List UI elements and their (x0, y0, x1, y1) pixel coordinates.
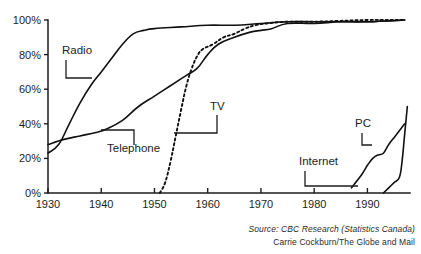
x-tick-label: 1950 (142, 198, 166, 210)
y-tick-label: 20% (19, 152, 41, 164)
y-tick-label: 60% (19, 83, 41, 95)
y-tick-label: 100% (13, 14, 41, 26)
series-label-tv: TV (210, 100, 225, 112)
y-tick-label: 40% (19, 118, 41, 130)
x-tick-label: 1940 (89, 198, 113, 210)
data-series-group (48, 20, 407, 193)
leader-line-pc (362, 133, 372, 145)
chart-axes (48, 20, 410, 193)
x-axis-ticks: 1930194019501960197019801990 (36, 188, 380, 210)
series-annotations: RadioTelephoneTVPCInternet (62, 44, 372, 186)
y-axis-ticks: 0%20%40%60%80%100% (13, 14, 48, 199)
x-tick-label: 1990 (355, 198, 379, 210)
x-tick-label: 1960 (195, 198, 219, 210)
technology-adoption-line-chart: 0%20%40%60%80%100% 193019401950196019701… (0, 0, 421, 254)
series-label-radio: Radio (62, 44, 92, 56)
leader-line-tv (174, 115, 217, 133)
series-line-internet (383, 107, 407, 194)
x-tick-label: 1980 (302, 198, 326, 210)
x-tick-label: 1970 (249, 198, 273, 210)
series-line-tv (160, 20, 405, 193)
series-line-pc (351, 124, 404, 188)
source-credit: Source: CBC Research (Statistics Canada) (248, 224, 415, 234)
x-tick-label: 1930 (36, 198, 60, 210)
series-label-pc: PC (355, 117, 371, 129)
y-tick-label: 80% (19, 49, 41, 61)
leader-line-radio (66, 60, 92, 78)
byline-credit: Carrie Cockburn/The Globe and Mail (273, 237, 415, 247)
series-label-internet: Internet (299, 155, 339, 167)
chart-container: 0%20%40%60%80%100% 193019401950196019701… (0, 0, 421, 254)
series-line-telephone (48, 20, 405, 145)
leader-line-internet (305, 171, 358, 186)
